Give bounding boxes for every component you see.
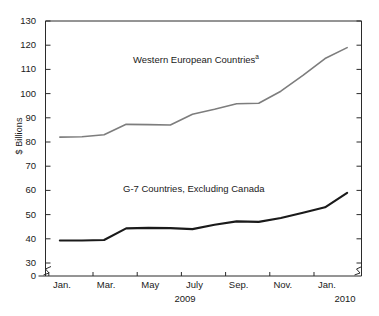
x-axis-year-label: 2010 xyxy=(320,294,370,304)
x-axis-tick-label: Mar. xyxy=(83,280,129,290)
y-axis-tick-label: 40 xyxy=(8,234,36,244)
x-axis-tick-label: May xyxy=(127,280,173,290)
y-axis-tick-label: 30 xyxy=(8,258,36,268)
y-axis-tick-label: 80 xyxy=(8,137,36,147)
y-axis-tick-label: 120 xyxy=(8,40,36,50)
y-axis-tick-label: 110 xyxy=(8,64,36,74)
y-axis-break-right xyxy=(355,267,363,276)
y-axis-tick-label: 60 xyxy=(8,185,36,195)
data-series-line-1 xyxy=(60,193,347,241)
x-axis-tick-label: July xyxy=(171,280,217,290)
x-axis-tick-label: Nov. xyxy=(260,280,306,290)
y-axis-tick-label: 50 xyxy=(8,210,36,220)
x-axis-tick-label: Sep. xyxy=(216,280,262,290)
series-label-g7-countries: G-7 Countries, Excluding Canada xyxy=(123,183,265,194)
x-axis-year-label: 2009 xyxy=(160,294,210,304)
series-footnote-marker: a xyxy=(255,53,259,60)
y-axis-break-left xyxy=(44,267,52,276)
chart-figure: $ Billions 304050607080901001101201300 J… xyxy=(0,0,379,316)
plot-area xyxy=(0,0,379,316)
series-label-western-european-countries: Western European Countriesa xyxy=(133,54,259,65)
y-axis-tick-label: 70 xyxy=(8,161,36,171)
y-axis-tick-label: 130 xyxy=(8,16,36,26)
y-axis-tick-label: 100 xyxy=(8,89,36,99)
y-axis-tick-label: 90 xyxy=(8,113,36,123)
y-axis-zero-label: 0 xyxy=(8,271,36,281)
x-axis-tick-label: Jan. xyxy=(304,280,350,290)
x-axis-tick-label: Jan. xyxy=(39,280,85,290)
